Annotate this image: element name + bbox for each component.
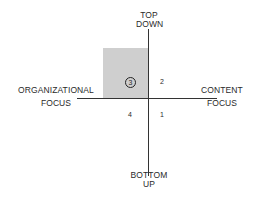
axis-label-left: ORGANIZATIONAL FOCUS xyxy=(14,86,98,108)
vertical-axis xyxy=(148,29,149,176)
quadrant-1-number: 1 xyxy=(160,111,164,119)
axis-label-top: TOP DOWN xyxy=(136,11,162,29)
axis-label-right: CONTENT FOCUS xyxy=(198,86,246,108)
quadrant-4-number: 4 xyxy=(128,111,132,119)
quadrant-3-circled-number: 3 xyxy=(125,77,136,88)
horizontal-axis xyxy=(77,98,217,99)
highlighted-quadrant-3 xyxy=(103,48,148,98)
axis-label-bottom: BOTTOM UP xyxy=(126,171,172,189)
quadrant-2-number: 2 xyxy=(160,78,164,86)
